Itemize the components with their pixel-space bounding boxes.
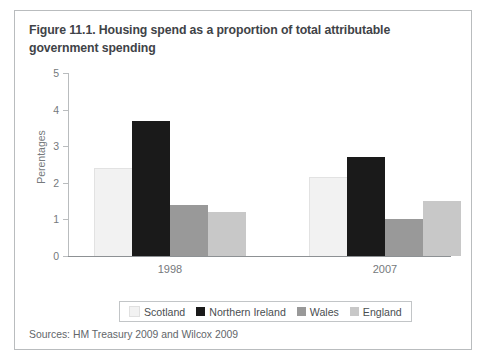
y-axis-tick <box>63 256 68 257</box>
y-axis-tick <box>63 146 68 147</box>
legend-item-wales: Wales <box>297 306 339 318</box>
legend-item-label: Wales <box>310 306 339 318</box>
legend-swatch-icon <box>196 307 205 316</box>
bar-wales-1998 <box>170 205 208 256</box>
y-axis-tick-label: 1 <box>37 214 59 224</box>
legend-item-label: Northern Ireland <box>209 306 286 318</box>
legend-swatch-icon <box>297 307 306 316</box>
bar-wales-2007 <box>385 219 423 256</box>
y-axis-tick <box>63 110 68 111</box>
y-axis-tick-label: 2 <box>37 178 59 188</box>
legend-item-label: England <box>363 306 402 318</box>
y-axis-tick-label: 4 <box>37 105 59 115</box>
y-axis-tick <box>63 183 68 184</box>
x-axis-tick-label: 2007 <box>355 263 415 275</box>
y-axis-tick-label: 5 <box>37 68 59 78</box>
bar-england-2007 <box>423 201 461 256</box>
y-axis-line <box>68 73 69 257</box>
y-axis-tick-label: 0 <box>37 251 59 261</box>
y-axis-tick <box>63 73 68 74</box>
y-axis-tick-label: 3 <box>37 141 59 151</box>
legend-swatch-icon <box>129 306 140 317</box>
bar-england-1998 <box>208 212 246 256</box>
y-axis-tick <box>63 219 68 220</box>
legend-item-northern-ireland: Northern Ireland <box>196 306 286 318</box>
bar-scotland-2007 <box>309 177 347 256</box>
source-note: Sources: HM Treasury 2009 and Wilcox 200… <box>29 329 238 340</box>
legend-item-scotland: Scotland <box>129 306 185 318</box>
figure-panel: Figure 11.1. Housing spend as a proporti… <box>14 10 472 350</box>
legend-item-england: England <box>350 306 402 318</box>
legend-item-label: Scotland <box>144 306 185 318</box>
bar-northern-ireland-1998 <box>132 121 170 256</box>
chart-legend: ScotlandNorthern IrelandWalesEngland <box>119 301 412 322</box>
legend-swatch-icon <box>350 307 359 316</box>
chart-plot-area: Perentages 012345 19982007 <box>15 11 473 351</box>
bar-scotland-1998 <box>94 168 132 256</box>
x-axis-line <box>68 256 451 257</box>
bar-northern-ireland-2007 <box>347 157 385 256</box>
x-axis-tick-label: 1998 <box>140 263 200 275</box>
